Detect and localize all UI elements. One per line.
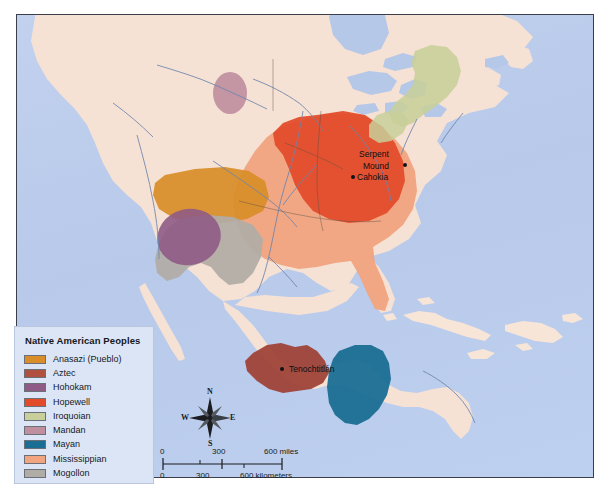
place-label-serpent-mound-line2: Mound — [363, 161, 389, 171]
legend-item-aztec: Aztec — [24, 366, 145, 380]
scale-miles-0: 0 — [160, 447, 164, 456]
legend-label-hopewell: Hopewell — [53, 398, 90, 407]
scale-km-300: 300 — [196, 471, 209, 480]
map-page: Serpent Mound Cahokia Tenochtitlán Nativ… — [0, 0, 610, 501]
legend-item-iroquoian: Iroquoian — [24, 409, 145, 423]
legend-item-anasazi: Anasazi (Pueblo) — [24, 352, 145, 366]
place-label-tenochtitlan: Tenochtitlán — [289, 364, 334, 374]
legend-swatch-mandan — [24, 426, 46, 435]
place-dot-serpent-mound — [403, 163, 407, 167]
legend-swatch-aztec — [24, 369, 46, 378]
legend-swatch-hohokam — [24, 383, 46, 392]
legend-swatch-mayan — [24, 440, 46, 449]
scale-km-0: 0 — [160, 471, 164, 480]
place-dot-cahokia — [351, 175, 355, 179]
place-dot-tenochtitlan — [280, 367, 284, 371]
legend-label-iroquoian: Iroquoian — [53, 412, 91, 421]
legend-item-mississippian: Mississippian — [24, 452, 145, 466]
legend-label-aztec: Aztec — [53, 369, 76, 378]
region-anasazi — [153, 167, 269, 223]
legend-swatch-hopewell — [24, 398, 46, 407]
scale-km-600: 600 kilometers — [240, 471, 292, 480]
region-mayan — [327, 345, 391, 425]
compass-north: N — [207, 387, 213, 396]
scale-bar: 0 300 600 miles 0 300 600 kilometers — [160, 447, 335, 479]
scale-miles-600: 600 miles — [264, 447, 298, 456]
place-label-cahokia: Cahokia — [357, 172, 388, 182]
scale-bar-graphic — [162, 458, 337, 472]
legend-label-hohokam: Hohokam — [53, 383, 92, 392]
legend-item-hopewell: Hopewell — [24, 395, 145, 409]
legend-swatch-iroquoian — [24, 412, 46, 421]
legend: Native American Peoples Anasazi (Pueblo)… — [14, 326, 154, 484]
compass-west: W — [181, 413, 189, 422]
place-label-serpent-mound-line1: Serpent — [359, 149, 389, 159]
scale-miles-300: 300 — [212, 447, 225, 456]
legend-label-mississippian: Mississippian — [53, 455, 107, 464]
legend-item-mayan: Mayan — [24, 438, 145, 452]
legend-label-mayan: Mayan — [53, 440, 80, 449]
legend-swatch-anasazi — [24, 355, 46, 364]
legend-item-hohokam: Hohokam — [24, 381, 145, 395]
legend-swatch-mississippian — [24, 455, 46, 464]
legend-label-mandan: Mandan — [53, 426, 86, 435]
region-mandan — [213, 72, 247, 114]
landmass-caribbean — [383, 297, 583, 359]
compass-rose: N S W E — [180, 388, 240, 450]
legend-title: Native American Peoples — [25, 335, 145, 346]
legend-label-anasazi: Anasazi (Pueblo) — [53, 355, 122, 364]
legend-item-mandan: Mandan — [24, 423, 145, 437]
legend-label-mogollon: Mogollon — [53, 469, 90, 478]
compass-east: E — [230, 413, 235, 422]
legend-swatch-mogollon — [24, 469, 46, 478]
legend-item-mogollon: Mogollon — [24, 466, 145, 480]
legend-item-list: Anasazi (Pueblo)AztecHohokamHopewellIroq… — [24, 352, 145, 481]
